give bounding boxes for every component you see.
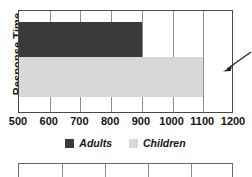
legend-label: Adults	[79, 137, 112, 149]
x-tick-label: 600	[40, 115, 58, 127]
x-axis-tick-labels: 500600700800900100011001200	[18, 115, 233, 130]
pointer-arrow-icon	[218, 50, 252, 80]
legend-swatch-icon	[65, 139, 74, 148]
legend-swatch-icon	[129, 139, 138, 148]
chart-legend: AdultsChildren	[18, 135, 233, 151]
x-tick-label: 1000	[159, 115, 183, 127]
plot-area	[18, 10, 233, 113]
next-figure-frame-partial	[18, 163, 233, 177]
x-tick-label: 800	[101, 115, 119, 127]
gridline	[148, 164, 149, 177]
gridline	[62, 164, 63, 177]
gridline	[203, 11, 204, 112]
x-tick-label: 1200	[221, 115, 245, 127]
response-time-bar-chart: Response Time 50060070080090010001100120…	[0, 0, 252, 177]
x-tick-label: 700	[70, 115, 88, 127]
gridline	[191, 164, 192, 177]
x-tick-label: 500	[9, 115, 27, 127]
x-tick-label: 900	[132, 115, 150, 127]
bar-children	[19, 57, 203, 97]
legend-label: Children	[143, 137, 186, 149]
legend-item-children: Children	[129, 137, 186, 149]
x-tick-label: 1100	[190, 115, 214, 127]
bar-adults	[19, 22, 142, 57]
gridline	[105, 164, 106, 177]
legend-item-adults: Adults	[65, 137, 112, 149]
